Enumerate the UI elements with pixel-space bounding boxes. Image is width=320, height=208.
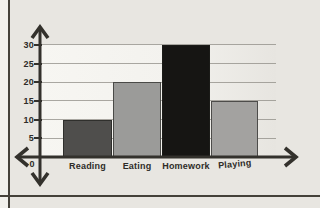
y-tick-label-30: 30	[6, 39, 34, 51]
gridline-30	[40, 44, 276, 45]
bar-playing	[211, 101, 258, 157]
arrow-down-icon	[32, 173, 48, 184]
bar-homework	[162, 45, 210, 157]
bar-reading	[63, 120, 112, 157]
y-tick-label-10: 10	[6, 114, 34, 126]
arrow-up-icon	[32, 27, 48, 38]
y-tick-5	[34, 137, 42, 139]
y-tick-10	[34, 119, 42, 121]
category-label-playing: Playing	[203, 155, 266, 172]
bar-eating	[113, 82, 161, 157]
y-tick-label-20: 20	[6, 76, 34, 88]
y-tick-15	[34, 100, 42, 102]
arrow-right-icon	[285, 148, 296, 166]
origin-label: 0	[26, 159, 38, 169]
y-tick-20	[34, 81, 42, 83]
y-tick-30	[34, 44, 42, 46]
y-tick-label-5: 5	[6, 132, 34, 144]
gridline-25	[40, 63, 276, 64]
y-tick-25	[34, 63, 42, 65]
bar-chart: 51015202530ReadingEatingHomeworkPlaying …	[0, 0, 320, 208]
y-tick-label-25: 25	[6, 58, 34, 70]
y-tick-label-15: 15	[6, 95, 34, 107]
